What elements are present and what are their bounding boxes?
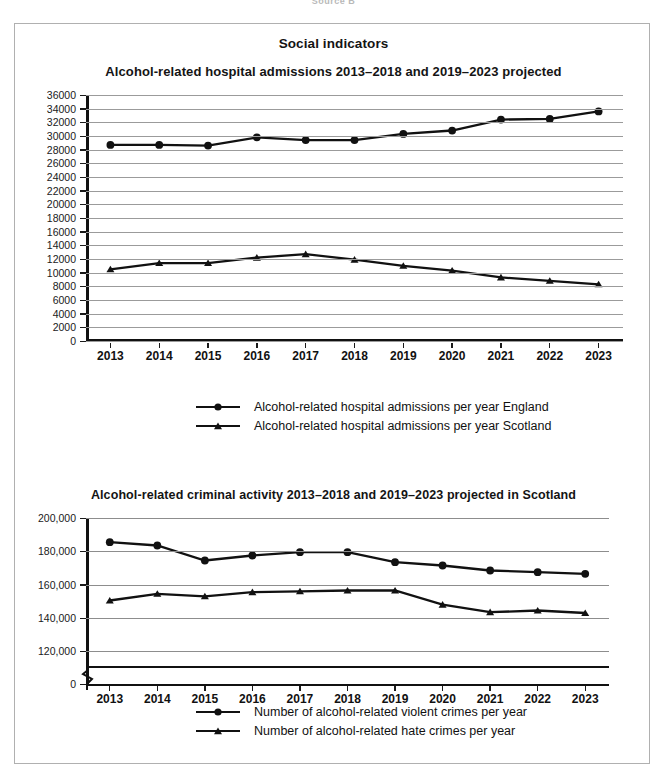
x-tick-mark	[159, 343, 160, 348]
y-tick-label: 34000	[47, 104, 76, 115]
y-tick-label: 120,000	[38, 646, 76, 657]
chart2-plot-area	[86, 518, 609, 668]
gridline	[86, 136, 623, 137]
x-tick-mark	[403, 343, 404, 348]
data-point-circle	[351, 136, 359, 144]
x-tick-mark	[500, 343, 501, 348]
data-point-circle	[448, 127, 456, 135]
y-tick-mark	[80, 108, 86, 109]
x-tick-label: 2021	[468, 692, 512, 706]
x-tick-mark	[305, 343, 306, 348]
x-tick-label: 2013	[88, 349, 132, 363]
x-tick-label: 2018	[333, 349, 377, 363]
gridline	[86, 286, 623, 287]
y-tick-mark	[80, 163, 86, 164]
chart2-series-layer	[86, 518, 609, 668]
series-line	[110, 542, 585, 574]
y-tick-mark	[80, 341, 86, 342]
x-tick-label: 2023	[577, 349, 621, 363]
x-tick-mark	[109, 686, 110, 691]
gridline	[86, 245, 623, 246]
x-tick-label: 2020	[421, 692, 465, 706]
y-tick-label: 8000	[53, 281, 76, 292]
x-tick-label: 2023	[563, 692, 607, 706]
y-tick-mark	[80, 551, 86, 552]
x-tick-mark	[110, 343, 111, 348]
data-point-circle	[106, 538, 114, 546]
chart1-plot-area	[86, 95, 623, 341]
y-tick-mark	[80, 122, 86, 123]
y-tick-label: 20000	[47, 199, 76, 210]
x-tick-mark	[252, 686, 253, 691]
x-tick-label: 2019	[373, 692, 417, 706]
legend-marker-triangle-icon	[196, 419, 240, 433]
series-line	[110, 591, 585, 614]
data-point-circle	[581, 570, 589, 578]
gridline	[86, 273, 623, 274]
y-tick-label: 36000	[47, 90, 76, 101]
x-tick-mark	[256, 343, 257, 348]
x-tick-label: 2020	[430, 349, 474, 363]
y-tick-mark	[80, 618, 86, 619]
y-tick-label: 160,000	[38, 580, 76, 591]
y-tick-mark	[80, 313, 86, 314]
legend-label: Number of alcohol-related hate crimes pe…	[254, 724, 515, 738]
x-tick-label: 2018	[326, 692, 370, 706]
x-tick-mark	[354, 343, 355, 348]
data-point-circle	[391, 558, 399, 566]
gridline	[86, 191, 623, 192]
legend-label: Alcohol-related hospital admissions per …	[254, 419, 551, 433]
x-tick-mark	[442, 686, 443, 691]
legend-item: Number of alcohol-related violent crimes…	[0, 705, 667, 719]
y-tick-mark	[80, 95, 86, 96]
y-tick-label: 0	[70, 336, 76, 347]
y-tick-label: 24000	[47, 172, 76, 183]
y-tick-mark	[80, 190, 86, 191]
y-tick-label: 26000	[47, 158, 76, 169]
y-tick-mark	[80, 177, 86, 178]
y-tick-mark	[80, 518, 86, 519]
x-tick-label: 2022	[516, 692, 560, 706]
gridline	[86, 551, 609, 552]
gridline	[86, 122, 623, 123]
x-tick-mark	[299, 686, 300, 691]
gridline	[86, 300, 623, 301]
legend-item: Alcohol-related hospital admissions per …	[0, 419, 667, 433]
data-point-circle	[486, 567, 494, 575]
x-tick-mark	[207, 343, 208, 348]
y-tick-mark	[80, 231, 86, 232]
x-tick-mark	[157, 686, 158, 691]
y-tick-mark	[80, 136, 86, 137]
data-point-circle	[249, 552, 257, 560]
data-point-circle	[204, 142, 212, 150]
y-tick-label: 22000	[47, 186, 76, 197]
legend-label: Alcohol-related hospital admissions per …	[254, 400, 549, 414]
y-tick-mark	[80, 272, 86, 273]
data-point-circle	[107, 141, 115, 149]
y-tick-label: 16000	[47, 227, 76, 238]
chart2: 200,000180,000160,000140,000120,00002013…	[0, 510, 667, 695]
legend-marker-triangle-icon	[196, 724, 240, 738]
x-tick-mark	[585, 686, 586, 691]
gridline	[86, 163, 623, 164]
chart1: 3600034000320003000028000260002400022000…	[0, 90, 667, 350]
x-tick-label: 2021	[479, 349, 523, 363]
x-tick-mark	[394, 686, 395, 691]
data-point-circle	[253, 133, 261, 141]
gridline	[86, 95, 623, 96]
y-tick-label: 200,000	[38, 513, 76, 524]
chart2-legend: Number of alcohol-related violent crimes…	[0, 705, 667, 743]
x-tick-mark	[347, 686, 348, 691]
chart1-title: Alcohol-related hospital admissions 2013…	[0, 64, 667, 79]
y-tick-label: 6000	[53, 295, 76, 306]
x-tick-mark	[598, 343, 599, 348]
y-tick-mark	[80, 204, 86, 205]
y-tick-label: 10000	[47, 268, 76, 279]
gridline	[86, 150, 623, 151]
legend-item: Alcohol-related hospital admissions per …	[0, 400, 667, 414]
data-point-circle	[155, 141, 163, 149]
x-tick-label: 2015	[186, 349, 230, 363]
y-tick-label-zero: 0	[70, 679, 76, 690]
y-tick-label: 4000	[53, 309, 76, 320]
x-tick-mark	[537, 686, 538, 691]
